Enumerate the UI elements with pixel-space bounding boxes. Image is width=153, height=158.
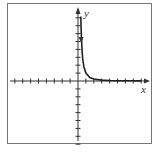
y-axis-label: y: [83, 7, 89, 19]
axes: [10, 10, 146, 141]
y-axis-arrow-icon: [76, 7, 81, 14]
function-curve: [81, 17, 141, 81]
x-axis-label: x: [140, 83, 146, 95]
curve-direction-arrow-icon: [79, 37, 84, 43]
function-graph: y x: [0, 0, 153, 158]
